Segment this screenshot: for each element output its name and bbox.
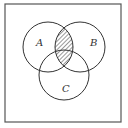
venn-diagram: A B C (0, 0, 128, 128)
set-b-label: B (89, 37, 97, 48)
set-c-label: C (62, 83, 70, 94)
venn-diagram-canvas: A B C (0, 0, 128, 128)
set-a-label: A (35, 37, 43, 48)
